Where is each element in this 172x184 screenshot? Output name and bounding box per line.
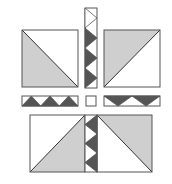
hst-block-bottom-left	[30, 115, 85, 172]
hst-block-bottom-right	[97, 115, 152, 172]
hst-block-top-left	[22, 30, 78, 87]
sashing-strip-left-horizontal	[22, 96, 78, 106]
quilt-diagram	[0, 0, 172, 184]
sashing-strip-bottom-vertical	[85, 115, 97, 172]
sashing-strip-top-vertical	[85, 8, 97, 88]
hst-block-top-right	[104, 30, 160, 87]
sashing-strip-right-horizontal	[104, 96, 160, 106]
center-square	[86, 96, 96, 106]
